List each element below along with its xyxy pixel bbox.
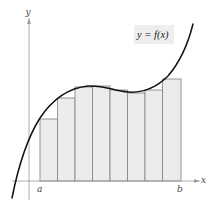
y-axis-label: y — [25, 7, 32, 17]
riemann-rectangle-2 — [58, 98, 76, 181]
riemann-rectangle-6 — [128, 93, 146, 181]
riemann-sum-diagram: y x a b y = f(x) — [0, 0, 210, 206]
riemann-rectangle-4 — [93, 86, 111, 181]
x-axis-arrow-icon — [194, 179, 201, 183]
riemann-rectangle-7 — [145, 90, 163, 181]
interval-end-label: b — [177, 184, 183, 194]
y-axis-arrow-icon — [27, 17, 31, 24]
riemann-rectangle-3 — [75, 87, 93, 181]
riemann-rectangles — [40, 79, 181, 181]
interval-start-label: a — [37, 184, 42, 194]
x-axis-label: x — [201, 175, 206, 185]
riemann-rectangle-1 — [40, 119, 58, 181]
riemann-rectangle-8 — [163, 79, 182, 181]
function-label: y = f(x) — [136, 29, 169, 41]
riemann-rectangle-5 — [110, 90, 128, 181]
